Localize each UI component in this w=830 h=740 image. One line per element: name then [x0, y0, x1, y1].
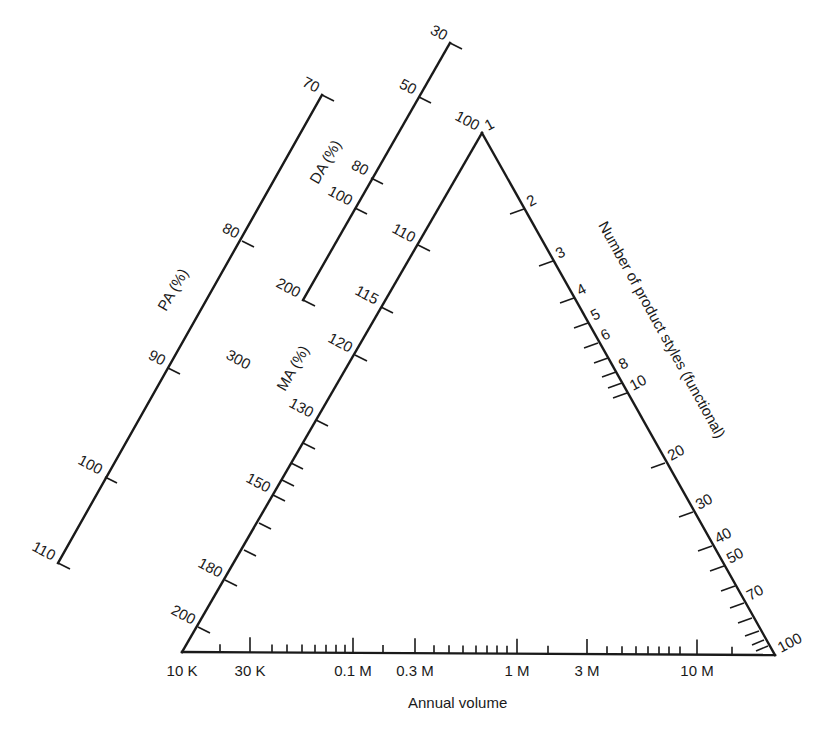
pa-tick-label: 100	[75, 451, 105, 478]
da-end-cap-bottom	[303, 300, 315, 306]
pa-end-cap-top	[322, 95, 334, 101]
product-styles-tick	[721, 586, 735, 591]
product-styles-tick	[756, 646, 768, 651]
da-scale: 305080100200300 DA (%)	[224, 21, 462, 373]
annual-volume-tick-label: 0.1 M	[334, 662, 372, 679]
ma-ticks: 100110115120130150180200	[168, 107, 482, 633]
ma-tick-label: 150	[243, 469, 273, 496]
ma-tick	[244, 550, 256, 556]
product-styles-tick-label: 8	[615, 354, 630, 373]
annual-volume-axis-line	[182, 652, 775, 655]
product-styles-tick	[539, 261, 553, 266]
da-title: DA (%)	[306, 137, 344, 187]
product-styles-tick-label: 70	[743, 581, 766, 604]
ma-tick-label: 115	[352, 281, 381, 307]
ma-axis-line	[182, 133, 482, 652]
product-styles-tick	[710, 566, 724, 571]
product-styles-tick	[594, 358, 608, 363]
annual-volume-tick-label: 0.3 M	[396, 662, 434, 679]
product-styles-tick	[574, 323, 588, 328]
da-tick-label: 200	[273, 274, 303, 301]
da-tick	[419, 97, 431, 103]
product-styles-tick	[698, 546, 712, 551]
product-styles-tick-label: 50	[723, 544, 746, 567]
ma-tick	[225, 580, 237, 586]
da-end-cap-top	[450, 43, 462, 49]
da-tick-label: 50	[397, 75, 420, 98]
product-styles-tick	[679, 512, 693, 517]
da-ticks: 305080100200300	[224, 21, 451, 373]
annual-volume-tick-label: 10 K	[167, 662, 198, 679]
ma-tick	[418, 245, 430, 251]
pa-tick-label: 80	[220, 219, 243, 242]
da-tick-label: 100	[325, 182, 355, 209]
product-styles-tick	[745, 631, 759, 636]
da-tick-label: 30	[428, 21, 451, 44]
ma-title: MA (%)	[273, 342, 312, 393]
da-tick	[371, 178, 383, 184]
product-styles-tick	[651, 463, 665, 468]
ma-tick-label: 200	[168, 601, 198, 628]
pa-axis-line	[58, 95, 322, 563]
product-styles-tick-label: 5	[587, 305, 602, 324]
product-styles-tick	[602, 372, 616, 377]
product-styles-tick-label: 4	[573, 280, 588, 299]
annual-volume-ticks: 10 K30 K0.1 M0.3 M1 M3 M10 M	[167, 637, 732, 679]
da-tick	[355, 208, 367, 214]
product-styles-tick-label: 10	[626, 371, 649, 394]
nomogram-diagram: 708090100110 PA (%) 305080100200300 DA (…	[0, 0, 830, 740]
da-tick-label: 300	[224, 346, 254, 373]
pa-tick	[242, 241, 254, 247]
ma-tick-label: 100	[452, 107, 482, 134]
pa-tick	[105, 477, 117, 483]
product-styles-tick-label: 2	[523, 191, 538, 210]
product-styles-tick	[584, 343, 598, 348]
ma-tick	[316, 420, 328, 426]
product-styles-tick	[608, 383, 622, 388]
ma-tick-label: 110	[389, 219, 418, 245]
ma-tick	[381, 307, 393, 313]
pa-end-cap-bottom	[58, 563, 70, 569]
pa-scale: 708090100110 PA (%)	[29, 73, 334, 569]
ma-tick-label: 130	[286, 394, 316, 421]
annual-volume-tick-label: 3 M	[574, 662, 599, 679]
product-styles-tick	[738, 618, 752, 623]
pa-tick-label: 70	[300, 73, 323, 96]
triangle-frame	[182, 133, 775, 655]
product-styles-tick-label: 1	[481, 115, 496, 134]
annual-volume-title: Annual volume	[408, 694, 507, 711]
pa-ticks: 708090100110	[29, 73, 322, 564]
ma-tick	[259, 523, 271, 529]
product-styles-tick-label: 40	[711, 524, 734, 547]
da-tick-label: 80	[349, 156, 372, 179]
ma-tick-label: 180	[195, 554, 225, 581]
pa-tick	[168, 368, 180, 374]
ma-tick	[282, 480, 294, 486]
product-styles-tick	[560, 298, 574, 303]
product-styles-ticks: 1234568102030405070100	[481, 115, 804, 656]
product-styles-tick	[730, 603, 744, 608]
product-styles-tick-label: 3	[552, 243, 567, 262]
ma-tick	[303, 443, 315, 449]
annual-volume-tick-label: 30 K	[235, 662, 266, 679]
product-styles-tick-label: 100	[774, 629, 804, 656]
pa-tick-label: 90	[146, 346, 169, 369]
product-styles-tick	[510, 209, 524, 214]
annual-volume-tick-label: 1 M	[504, 662, 529, 679]
ma-tick	[273, 495, 285, 501]
pa-tick-label: 110	[29, 537, 58, 563]
product-styles-title: Number of product styles (functional)	[595, 218, 729, 441]
ma-tick-label: 120	[325, 329, 355, 356]
ma-tick	[198, 627, 210, 633]
ma-tick	[291, 463, 303, 469]
product-styles-tick-label: 20	[664, 441, 687, 464]
pa-title: PA (%)	[154, 266, 192, 314]
product-styles-axis-line	[482, 133, 775, 655]
annual-volume-tick-label: 10 M	[680, 662, 713, 679]
product-styles-tick	[613, 393, 627, 398]
product-styles-tick	[752, 640, 764, 645]
product-styles-tick-label: 30	[692, 490, 715, 513]
ma-tick	[355, 355, 367, 361]
